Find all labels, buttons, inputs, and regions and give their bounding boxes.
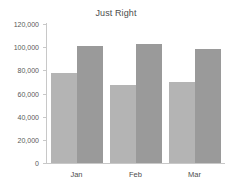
plot-area	[47, 24, 224, 163]
y-tick-label: 100,000	[0, 44, 39, 51]
bar-jan-series-1	[51, 73, 77, 163]
y-tick-label: 40,000	[0, 113, 39, 120]
y-tick-label: 120,000	[0, 21, 39, 28]
bar-chart: Just Right 020,00040,00060,00080,000100,…	[0, 0, 232, 189]
bar-jan-series-2	[77, 46, 103, 163]
y-tick-label: 20,000	[0, 136, 39, 143]
bar-mar-series-2	[195, 49, 221, 163]
bar-feb-series-2	[136, 44, 162, 163]
y-tick-mark	[43, 163, 47, 164]
y-tick-label: 60,000	[0, 90, 39, 97]
x-tick-label-mar: Mar	[160, 170, 230, 179]
bar-feb-series-1	[110, 85, 136, 163]
bar-mar-series-1	[169, 82, 195, 163]
chart-title: Just Right	[0, 8, 232, 18]
x-axis-line	[46, 163, 225, 164]
y-tick-label: 80,000	[0, 67, 39, 74]
y-tick-label: 0	[0, 160, 39, 167]
